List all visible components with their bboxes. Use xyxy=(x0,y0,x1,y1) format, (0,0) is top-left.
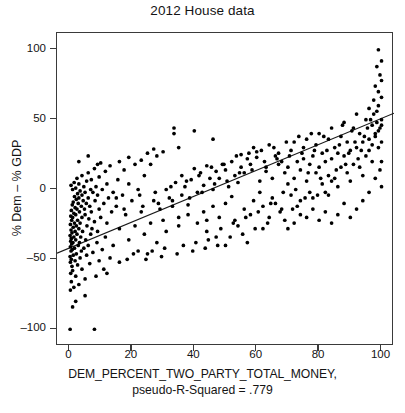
data-point xyxy=(149,163,153,167)
data-point xyxy=(84,202,88,206)
data-point xyxy=(130,199,134,203)
data-point xyxy=(283,218,287,222)
data-point xyxy=(86,244,90,248)
data-point xyxy=(238,171,242,175)
data-point xyxy=(353,140,357,144)
data-point xyxy=(150,249,154,253)
data-point xyxy=(175,252,179,256)
data-point xyxy=(203,246,207,250)
data-point xyxy=(72,285,76,289)
data-point xyxy=(73,230,77,234)
data-point xyxy=(261,204,265,208)
data-point xyxy=(89,210,93,214)
data-point xyxy=(286,182,290,186)
data-point xyxy=(217,216,221,220)
data-point xyxy=(74,274,78,278)
data-point xyxy=(82,185,86,189)
data-point xyxy=(377,129,381,133)
data-point xyxy=(105,221,109,225)
data-point xyxy=(359,149,363,153)
data-point xyxy=(314,171,318,175)
data-point xyxy=(363,135,367,139)
data-point xyxy=(206,238,210,242)
data-point xyxy=(261,227,265,231)
data-point xyxy=(202,210,206,214)
data-point xyxy=(99,216,103,220)
data-point xyxy=(361,174,365,178)
data-point xyxy=(330,126,334,130)
data-point xyxy=(196,190,200,194)
data-point xyxy=(86,196,90,200)
data-point xyxy=(292,176,296,180)
data-point xyxy=(364,118,368,122)
data-point xyxy=(104,235,108,239)
data-point xyxy=(155,241,159,245)
data-point xyxy=(118,160,122,164)
data-point xyxy=(256,210,260,214)
data-point xyxy=(295,204,299,208)
data-point xyxy=(292,221,296,225)
data-point xyxy=(180,174,184,178)
data-point xyxy=(182,244,186,248)
data-point xyxy=(309,132,313,136)
data-point xyxy=(269,202,273,206)
data-point xyxy=(76,218,80,222)
data-point xyxy=(138,193,142,197)
data-point xyxy=(139,158,143,162)
data-point xyxy=(378,168,382,172)
data-point xyxy=(302,157,306,161)
data-point xyxy=(107,196,111,200)
data-point xyxy=(333,176,337,180)
data-point-group xyxy=(68,48,383,331)
data-point xyxy=(358,132,362,136)
data-point xyxy=(311,154,315,158)
data-point xyxy=(275,157,279,161)
data-point xyxy=(79,204,83,208)
data-point xyxy=(69,183,73,187)
data-point xyxy=(79,235,83,239)
data-point xyxy=(133,163,137,167)
data-point xyxy=(230,160,234,164)
data-point xyxy=(88,262,92,266)
data-point xyxy=(324,190,328,194)
data-point xyxy=(305,216,309,220)
data-point xyxy=(264,169,268,173)
data-point xyxy=(161,218,165,222)
data-point xyxy=(177,224,181,228)
data-point xyxy=(380,160,384,164)
data-point xyxy=(171,199,175,203)
data-point xyxy=(80,216,84,220)
data-point xyxy=(345,140,349,144)
data-point xyxy=(77,283,81,287)
data-point xyxy=(96,230,100,234)
data-point xyxy=(68,327,72,331)
data-point xyxy=(136,188,140,192)
data-point xyxy=(72,235,76,239)
data-point xyxy=(177,216,181,220)
data-point xyxy=(76,263,80,267)
data-point xyxy=(84,238,88,242)
data-point xyxy=(114,196,118,200)
data-point xyxy=(286,227,290,231)
plot-area xyxy=(56,32,393,345)
data-point xyxy=(89,232,93,236)
data-point xyxy=(197,174,201,178)
data-point xyxy=(71,200,75,204)
data-point xyxy=(73,246,77,250)
data-point xyxy=(263,160,267,164)
data-point xyxy=(245,241,249,245)
data-point xyxy=(285,140,289,144)
data-point xyxy=(157,202,161,206)
data-point xyxy=(108,164,112,168)
data-point xyxy=(277,151,281,155)
y-tick-label: 0 xyxy=(12,183,46,195)
data-point xyxy=(205,218,209,222)
data-point xyxy=(377,48,381,52)
data-point xyxy=(71,305,75,309)
data-point xyxy=(367,190,371,194)
data-point xyxy=(239,165,243,169)
data-point xyxy=(75,176,79,180)
data-point xyxy=(87,217,91,221)
data-point xyxy=(104,169,108,173)
data-point xyxy=(242,171,246,175)
